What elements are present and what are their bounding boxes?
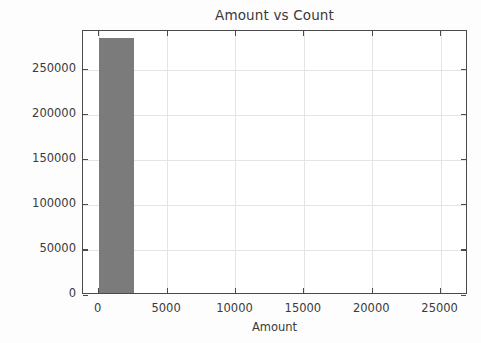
bar [99, 38, 135, 293]
tick-mark-x [440, 288, 441, 293]
tick-mark-y [461, 159, 466, 160]
y-tick-label: 50000 [14, 241, 76, 255]
tick-mark-y [83, 69, 88, 70]
matplotlib-figure: Amount vs Count 050000100000150000200000… [0, 0, 481, 343]
x-tick-label: 0 [68, 301, 128, 315]
tick-mark-x [303, 288, 304, 293]
x-tick-label: 15000 [273, 301, 333, 315]
tick-mark-y [461, 295, 466, 296]
tick-mark-x [235, 31, 236, 36]
tick-mark-x [440, 31, 441, 36]
figure-canvas: · · · Amount vs Count 050000100000150000… [0, 0, 481, 343]
y-tick-label: 0 [14, 286, 76, 300]
tick-mark-y [83, 249, 88, 250]
y-tick-label: 200000 [14, 106, 76, 120]
tick-mark-x [167, 288, 168, 293]
tick-mark-x [372, 31, 373, 36]
x-tick-label: 20000 [341, 301, 401, 315]
tick-mark-x [235, 288, 236, 293]
tick-mark-x [98, 31, 99, 36]
tick-mark-x [303, 31, 304, 36]
chart-title: Amount vs Count [82, 7, 467, 23]
y-tick-label: 100000 [14, 196, 76, 210]
y-tick-label: 250000 [14, 61, 76, 75]
tick-mark-y [461, 249, 466, 250]
tick-mark-y [461, 204, 466, 205]
tick-mark-y [83, 159, 88, 160]
x-tick-label: 5000 [136, 301, 196, 315]
x-axis-label: Amount [82, 320, 467, 334]
plot-area [82, 30, 467, 294]
tick-mark-x [167, 31, 168, 36]
y-tick-label: 150000 [14, 151, 76, 165]
tick-mark-x [98, 288, 99, 293]
x-tick-label: 25000 [410, 301, 470, 315]
tick-mark-x [372, 288, 373, 293]
tick-mark-y [83, 114, 88, 115]
tick-mark-y [461, 114, 466, 115]
tick-mark-y [83, 295, 88, 296]
tick-mark-y [461, 69, 466, 70]
tick-mark-y [83, 204, 88, 205]
bar-series [83, 31, 466, 293]
x-tick-label: 10000 [204, 301, 264, 315]
